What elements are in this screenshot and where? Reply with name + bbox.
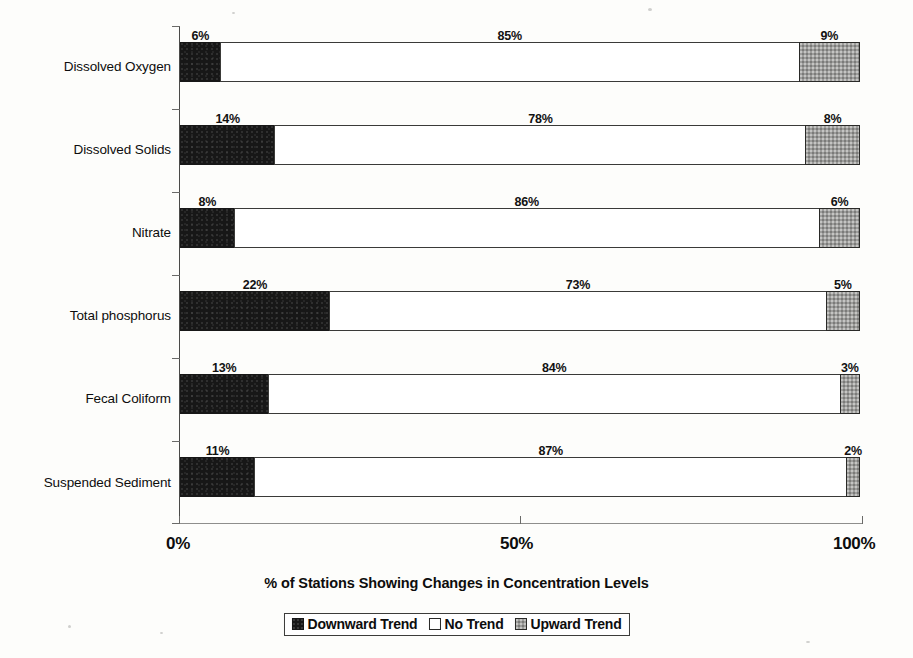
bar-value-label-upward: 6% [831,196,849,209]
bar-segment-no-trend[interactable]: 84% [268,374,841,414]
bar-value-label-upward: 3% [841,362,859,375]
bar-row-suspended-sediment: 11% 87% 2% [180,457,862,497]
category-label-suspended-sediment: Suspended Sediment [44,476,180,490]
scan-speckle [806,641,810,643]
bar-value-label-no-trend: 78% [528,113,552,126]
legend-label-downward: Downward Trend [307,617,417,631]
bar-value-label-upward: 5% [834,279,852,292]
chart-legend: Downward Trend No Trend Upward Trend [283,613,629,636]
bar-track: 6% 85% 9% [180,42,862,82]
category-label-fecal-coliform: Fecal Coliform [85,392,180,406]
category-label-total-phosphorus: Total phosphorus [70,309,180,323]
legend-swatch-upward-icon [515,618,527,630]
bar-segment-downward[interactable]: 8% [180,208,235,248]
bar-value-label-downward: 14% [216,113,240,126]
bar-value-label-no-trend: 87% [538,445,562,458]
bar-segment-upward[interactable]: 5% [826,291,860,331]
scan-speckle [68,625,71,628]
bar-segment-downward[interactable]: 6% [180,42,221,82]
x-tick-label-50: 50% [500,535,533,552]
category-axis-tick [172,275,180,276]
value-axis-line [179,523,863,524]
bar-value-label-no-trend: 73% [566,279,590,292]
legend-label-upward: Upward Trend [531,617,622,631]
category-label-dissolved-oxygen: Dissolved Oxygen [64,60,180,74]
bar-track: 22% 73% 5% [180,291,862,331]
bar-value-label-upward: 9% [820,30,838,43]
legend-item-no-trend[interactable]: No Trend [428,617,503,631]
legend-label-no-trend: No Trend [444,617,503,631]
bar-segment-upward[interactable]: 3% [840,374,860,414]
bar-segment-downward[interactable]: 11% [180,457,255,497]
x-axis-title: % of Stations Showing Changes in Concent… [0,576,913,591]
bar-value-label-downward: 13% [212,362,236,375]
scan-speckle [648,8,652,11]
bar-segment-no-trend[interactable]: 78% [274,125,806,165]
legend-item-downward-trend[interactable]: Downward Trend [291,617,417,631]
bar-value-label-downward: 11% [206,445,230,458]
bar-segment-no-trend[interactable]: 87% [254,457,847,497]
bar-segment-downward[interactable]: 13% [180,374,269,414]
bar-row-fecal-coliform: 13% 84% 3% [180,374,862,414]
bar-track: 13% 84% 3% [180,374,862,414]
bar-value-label-upward: 8% [824,113,842,126]
category-axis-tick [172,358,180,359]
bar-segment-no-trend[interactable]: 86% [234,208,821,248]
category-label-dissolved-solids: Dissolved Solids [74,143,180,157]
bar-segment-downward[interactable]: 14% [180,125,275,165]
bar-segment-upward[interactable]: 8% [805,125,860,165]
plot-area: 6% 85% 9% 14% 78% 8% [180,28,862,522]
bar-value-label-downward: 8% [198,196,216,209]
bar-value-label-no-trend: 84% [542,362,566,375]
bar-segment-downward[interactable]: 22% [180,291,330,331]
bar-track: 8% 86% 6% [180,208,862,248]
bar-value-label-no-trend: 86% [515,196,539,209]
bar-value-label-no-trend: 85% [498,30,522,43]
x-tick-label-100: 100% [833,535,875,552]
bar-track: 14% 78% 8% [180,125,862,165]
bar-value-label-downward: 22% [243,279,267,292]
scan-speckle [232,12,235,14]
category-axis-tick [172,441,180,442]
legend-swatch-downward-icon [291,618,303,630]
category-label-nitrate: Nitrate [132,226,180,240]
category-axis-tick [172,26,180,27]
bar-segment-no-trend[interactable]: 85% [220,42,800,82]
bar-segment-upward[interactable]: 9% [799,42,860,82]
bar-value-label-upward: 2% [844,445,862,458]
bar-row-dissolved-oxygen: 6% 85% 9% [180,42,862,82]
bar-track: 11% 87% 2% [180,457,862,497]
legend-swatch-no-trend-icon [428,618,440,630]
bar-segment-no-trend[interactable]: 73% [329,291,827,331]
scan-speckle [160,632,163,634]
bar-segment-upward[interactable]: 2% [846,457,860,497]
category-axis-tick [172,109,180,110]
x-tick-label-0: 0% [166,535,190,552]
stacked-bar-chart: Dissolved Oxygen Dissolved Solids Nitrat… [0,0,913,658]
bar-value-label-downward: 6% [192,30,210,43]
category-axis-tick [172,192,180,193]
legend-item-upward-trend[interactable]: Upward Trend [515,617,622,631]
bar-row-total-phosphorus: 22% 73% 5% [180,291,862,331]
value-axis-tick-100 [862,516,863,524]
bar-row-dissolved-solids: 14% 78% 8% [180,125,862,165]
bar-segment-upward[interactable]: 6% [819,208,860,248]
bar-row-nitrate: 8% 86% 6% [180,208,862,248]
